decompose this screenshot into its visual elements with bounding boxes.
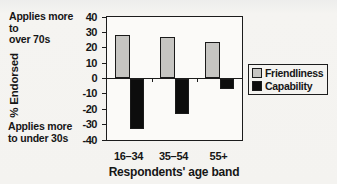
friendliness-swatch-icon (252, 68, 262, 78)
y-axis-tick (102, 140, 106, 141)
y-axis-tick (102, 17, 106, 18)
bar-chart-figure: Applies more to over 70s % Endorsed Appl… (0, 0, 337, 184)
y-axis-tick (102, 124, 106, 125)
bar-capability-16–34 (130, 79, 145, 130)
x-axis-tick-label: 16–34 (104, 150, 154, 162)
bar-capability-55+ (220, 79, 235, 90)
y-axis-tick-label: 40 (63, 11, 97, 23)
y-axis-tick-label: 20 (63, 41, 97, 53)
bar-capability-35–54 (175, 79, 190, 114)
x-axis-tick (152, 79, 153, 82)
y-axis-tick-label: 10 (63, 57, 97, 69)
x-axis-tick-label: 35–54 (149, 150, 199, 162)
y-axis-tick (102, 109, 106, 110)
y-axis-tick-label: 0 (63, 72, 97, 84)
y-axis-tick-label: -40 (63, 134, 97, 146)
y-axis-tick (102, 47, 106, 48)
y-axis-title: % Endorsed (8, 45, 21, 127)
y-axis-tick-label: -10 (63, 87, 97, 99)
bar-friendliness-35–54 (160, 37, 175, 79)
x-axis-title: Respondents' age band (74, 165, 274, 179)
x-axis-tick-label: 55+ (194, 150, 244, 162)
legend: Friendliness Capability (248, 64, 328, 95)
plot-area: 403020100-10-20-30-40 (106, 16, 243, 141)
y-axis-tick (102, 78, 106, 79)
x-axis-tick (197, 79, 198, 82)
y-axis-tick (102, 32, 106, 33)
bar-friendliness-16–34 (115, 35, 130, 78)
legend-label-friendliness: Friendliness (265, 67, 323, 79)
legend-label-capability: Capability (265, 80, 312, 92)
y-axis-tick (102, 93, 106, 94)
y-axis-tick-label: -30 (63, 118, 97, 130)
capability-swatch-icon (252, 81, 262, 91)
legend-item-friendliness: Friendliness (252, 67, 323, 79)
y-axis-tick-label: 30 (63, 26, 97, 38)
legend-item-capability: Capability (252, 80, 323, 92)
y-axis-tick-label: -20 (63, 103, 97, 115)
bar-friendliness-55+ (205, 42, 220, 79)
y-axis-tick (102, 63, 106, 64)
